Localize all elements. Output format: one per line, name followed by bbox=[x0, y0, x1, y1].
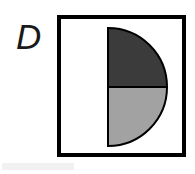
square-frame bbox=[57, 15, 186, 157]
figure-panel-d: D bbox=[0, 0, 195, 174]
figure-canvas bbox=[61, 19, 182, 153]
upper-quarter-segment bbox=[108, 28, 167, 87]
lower-quarter-segment bbox=[108, 87, 167, 146]
scan-artifact bbox=[2, 163, 74, 170]
panel-label: D bbox=[16, 17, 50, 57]
